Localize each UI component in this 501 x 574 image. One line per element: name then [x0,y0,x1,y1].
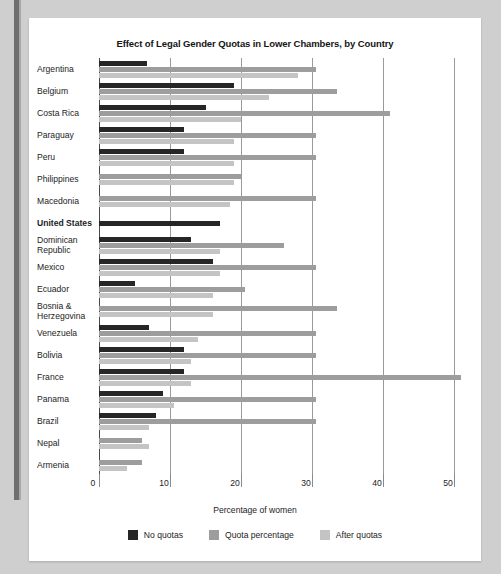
bar [99,353,316,358]
bar-group [99,344,454,366]
y-axis-label: Panama [37,394,99,404]
bar-group [99,410,454,432]
y-axis-label: Peru [37,152,99,162]
bar [99,281,135,286]
bar [99,237,191,242]
y-axis-label: United States [37,218,99,228]
x-tick-mark-20 [241,474,242,487]
bar [99,95,269,100]
bar [99,249,220,254]
x-tick-label-10: 10 [159,478,169,488]
x-tick-label-0: 0 [91,478,96,488]
bar [99,438,142,443]
bar [99,174,241,179]
bar-group [99,124,454,146]
x-tick-mark-50 [454,474,455,487]
bar [99,381,191,386]
bar [99,425,149,430]
legend-item[interactable]: After quotas [320,530,382,540]
bar [99,293,213,298]
bar [99,265,316,270]
y-axis-label: Mexico [37,262,99,272]
bar-group [99,300,454,322]
plot-area [99,58,454,476]
bar [99,180,234,185]
legend-swatch-after-quotas [320,530,330,540]
y-axis-label: Nepal [37,438,99,448]
bar-group [99,190,454,212]
y-axis-label: Costa Rica [37,108,99,118]
legend-item[interactable]: No quotas [128,530,183,540]
x-tick-label-20: 20 [230,478,240,488]
bar-group [99,58,454,80]
gridline-50 [454,58,455,476]
page-spine-edge [19,0,21,500]
bar-group [99,80,454,102]
legend-item[interactable]: Quota percentage [209,530,294,540]
x-tick-mark-10 [170,474,171,487]
y-axis-label: Venezuela [37,328,99,338]
y-axis-label: Ecuador [37,284,99,294]
bar [99,306,337,311]
bar [99,397,316,402]
bar [99,133,316,138]
bar [99,111,390,116]
chart-card: Effect of Legal Gender Quotas in Lower C… [29,18,481,561]
y-axis-label: Bosnia & Herzegovina [37,301,99,321]
bar [99,312,213,317]
bar [99,149,184,154]
bar-group [99,454,454,476]
bar [99,83,234,88]
y-axis-label: Belgium [37,86,99,96]
legend-swatch-quota-percentage [209,530,219,540]
bar [99,221,220,226]
bar-group [99,168,454,190]
bar [99,375,461,380]
bar [99,391,163,396]
bar-group [99,278,454,300]
bar [99,105,206,110]
bar [99,444,149,449]
bar [99,73,298,78]
legend-label: Quota percentage [225,530,294,540]
y-axis-label: Armenia [37,460,99,470]
bar [99,243,284,248]
y-axis-label: Bolivia [37,350,99,360]
x-tick-label-40: 40 [372,478,382,488]
y-axis-label: Paraguay [37,130,99,140]
page-background: Effect of Legal Gender Quotas in Lower C… [0,0,501,574]
x-axis-ticks: 01020304050 [99,478,454,494]
bar [99,287,245,292]
bar [99,403,174,408]
bar [99,359,191,364]
bar [99,196,316,201]
bar-group [99,388,454,410]
bar [99,202,230,207]
bar-group [99,146,454,168]
chart-title: Effect of Legal Gender Quotas in Lower C… [29,38,481,49]
y-axis-label: Philippines [37,174,99,184]
bar [99,337,198,342]
y-axis-label: Macedonia [37,196,99,206]
y-axis-label: Argentina [37,64,99,74]
x-tick-mark-30 [312,474,313,487]
bar [99,89,337,94]
bar [99,325,149,330]
legend-label: After quotas [336,530,382,540]
bar-group [99,256,454,278]
bar [99,161,234,166]
bar [99,127,184,132]
bar-group [99,212,454,234]
bar [99,369,184,374]
x-tick-mark-0 [99,474,100,487]
bar [99,413,156,418]
x-tick-mark-40 [383,474,384,487]
bar-group [99,234,454,256]
y-axis-label: Brazil [37,416,99,426]
bar [99,271,220,276]
bar [99,61,147,66]
bar [99,347,184,352]
legend-label: No quotas [144,530,183,540]
bar [99,259,213,264]
bar [99,139,234,144]
